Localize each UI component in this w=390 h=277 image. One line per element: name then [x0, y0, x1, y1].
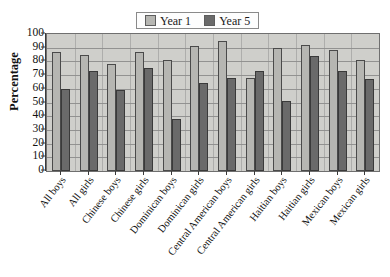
bar [163, 60, 172, 171]
bar-chart: Year 1 Year 5 Percentage 100908070605040… [0, 0, 390, 277]
chart-legend: Year 1 Year 5 [136, 12, 259, 29]
x-axis-label-slot: Mexican girls [350, 171, 378, 271]
bar [227, 78, 236, 171]
bar [190, 46, 199, 171]
legend-label-year-5: Year 5 [219, 15, 250, 27]
bar [365, 79, 374, 171]
bar [273, 48, 282, 171]
y-axis-tick-20: 20 [2, 137, 44, 149]
y-axis-tick-40: 40 [2, 109, 44, 121]
bar-group [268, 34, 296, 171]
bar-group [213, 34, 241, 171]
y-axis-tick-10: 10 [2, 151, 44, 163]
legend-entry-year-5: Year 5 [204, 15, 250, 27]
bar [144, 68, 153, 171]
bar [310, 56, 319, 171]
x-axis-tick-label: All boys [38, 175, 68, 210]
x-axis-label-slot: Haitian boys [267, 171, 295, 271]
bar [301, 45, 310, 171]
bar [255, 71, 264, 171]
bar [246, 78, 255, 171]
bar [116, 90, 125, 171]
bar-group [158, 34, 186, 171]
bar [107, 64, 116, 171]
bar-groups [47, 34, 379, 171]
y-axis-tick-30: 30 [2, 123, 44, 135]
bar-group [241, 34, 269, 171]
bar-group [47, 34, 75, 171]
y-axis-tick-0: 0 [2, 164, 44, 176]
bar [89, 71, 98, 171]
bar [61, 89, 70, 171]
x-axis-tick-labels: All boysAll girlsChinese boysChinese gir… [46, 171, 378, 271]
legend-entry-year-1: Year 1 [145, 15, 191, 27]
bar [218, 41, 227, 171]
legend-swatch-year-5 [204, 15, 215, 26]
bar-group [130, 34, 158, 171]
bar-group [324, 34, 352, 171]
y-axis-tick-60: 60 [2, 82, 44, 94]
bar-group [185, 34, 213, 171]
bar-group [296, 34, 324, 171]
y-axis-tick-70: 70 [2, 68, 44, 80]
legend-label-year-1: Year 1 [160, 15, 191, 27]
bar [338, 71, 347, 171]
bar [80, 55, 89, 171]
x-axis-label-slot: All boys [46, 171, 74, 271]
bar-group [102, 34, 130, 171]
y-axis-tick-50: 50 [2, 96, 44, 108]
bar [52, 52, 61, 171]
bar-group [75, 34, 103, 171]
bar [356, 60, 365, 171]
bar [135, 52, 144, 171]
y-axis-tick-90: 90 [2, 41, 44, 53]
bar [199, 83, 208, 171]
plot-area [46, 33, 380, 172]
y-axis-tick-labels: 1009080706050403020100 [0, 33, 44, 170]
bar [282, 101, 291, 171]
bar [172, 119, 181, 171]
y-axis-tick-80: 80 [2, 55, 44, 67]
bar [329, 50, 338, 171]
y-axis-tick-100: 100 [2, 27, 44, 39]
legend-swatch-year-1 [145, 15, 156, 26]
bar-group [351, 34, 379, 171]
